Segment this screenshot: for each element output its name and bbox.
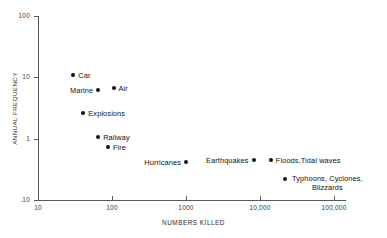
scatter-plot: 100101.10 10100100010,000100,000 ANNUAL … bbox=[0, 0, 387, 238]
x-tick-mark bbox=[186, 196, 187, 201]
y-axis-line bbox=[38, 16, 39, 201]
x-tick-label: 100,000 bbox=[304, 204, 364, 211]
data-point[interactable] bbox=[71, 73, 75, 77]
y-tick-mark bbox=[34, 77, 39, 78]
data-point-label: Air bbox=[119, 84, 128, 93]
data-point-label: Hurricanes bbox=[144, 157, 181, 166]
x-tick-label: 10 bbox=[8, 204, 68, 211]
x-tick-mark bbox=[334, 196, 335, 201]
y-tick-label: .10 bbox=[4, 196, 30, 203]
data-point[interactable] bbox=[252, 158, 256, 162]
data-point-label: Typhoons, Cyclones,Blizzards bbox=[292, 174, 363, 192]
data-point[interactable] bbox=[269, 158, 273, 162]
x-tick-mark bbox=[112, 196, 113, 201]
data-point[interactable] bbox=[81, 111, 85, 115]
data-point[interactable] bbox=[96, 88, 100, 92]
data-point[interactable] bbox=[112, 86, 116, 90]
data-point-label: Floods,Tidal waves bbox=[276, 155, 341, 164]
data-point[interactable] bbox=[96, 135, 100, 139]
x-tick-label: 100 bbox=[82, 204, 142, 211]
x-tick-label: 1000 bbox=[156, 204, 216, 211]
data-point-label: Explosions bbox=[88, 109, 125, 118]
y-tick-mark bbox=[34, 16, 39, 17]
data-point[interactable] bbox=[184, 160, 188, 164]
data-point-label: Marine bbox=[70, 85, 93, 94]
data-point-label: Railway bbox=[103, 133, 130, 142]
data-point[interactable] bbox=[106, 145, 110, 149]
data-point-label: Earthquakes bbox=[206, 155, 249, 164]
x-tick-label: 10,000 bbox=[230, 204, 290, 211]
x-tick-mark bbox=[38, 196, 39, 201]
y-tick-label: 100 bbox=[4, 12, 30, 19]
x-tick-mark bbox=[260, 196, 261, 201]
y-tick-mark bbox=[34, 139, 39, 140]
x-axis-line bbox=[38, 200, 346, 201]
y-axis-title: ANNUAL FREQUENCY bbox=[11, 64, 18, 154]
data-point-label: Car bbox=[78, 70, 90, 79]
x-axis-title: NUMBERS KILLED bbox=[0, 219, 387, 226]
data-point[interactable] bbox=[283, 177, 287, 181]
data-point-label: Fire bbox=[113, 143, 126, 152]
